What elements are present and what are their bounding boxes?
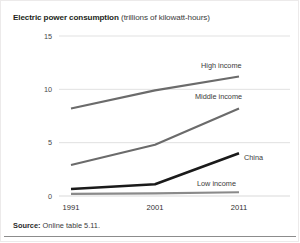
x-tick-label-2001: 2001 bbox=[147, 203, 164, 212]
line-chart-svg: 051015 High incomeMiddle incomeChinaLow … bbox=[0, 0, 300, 215]
x-axis-ticks-group: 199120012011 bbox=[63, 203, 248, 212]
series-label-middle-income: Middle income bbox=[195, 92, 242, 101]
series-labels-group: High incomeMiddle incomeChinaLow income bbox=[195, 61, 264, 189]
bottom-divider bbox=[4, 236, 296, 237]
y-tick-label-5: 5 bbox=[48, 138, 52, 147]
gridlines-group bbox=[59, 36, 290, 196]
source-label: Source: bbox=[13, 221, 41, 230]
source-text: Online table 5.11. bbox=[43, 221, 100, 230]
series-line-low-income bbox=[71, 192, 239, 194]
chart-figure: Electric power consumption (trillions of… bbox=[0, 0, 300, 243]
y-tick-label-10: 10 bbox=[44, 85, 52, 94]
y-axis-ticks-group: 051015 bbox=[44, 32, 52, 201]
x-tick-label-1991: 1991 bbox=[63, 203, 80, 212]
series-label-high-income: High income bbox=[201, 61, 242, 70]
y-tick-label-0: 0 bbox=[48, 192, 52, 201]
plot-area: 051015 High incomeMiddle incomeChinaLow … bbox=[0, 0, 300, 215]
series-label-china: China bbox=[244, 153, 264, 162]
y-tick-label-15: 15 bbox=[44, 32, 52, 41]
source-note: Source: Online table 5.11. bbox=[13, 221, 100, 231]
series-label-low-income: Low income bbox=[197, 179, 236, 188]
series-line-middle-income bbox=[71, 109, 239, 166]
x-tick-label-2011: 2011 bbox=[231, 203, 247, 212]
